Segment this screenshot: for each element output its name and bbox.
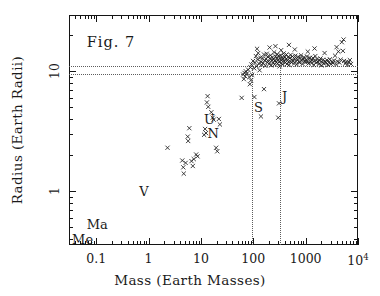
jupiter-label: J [282, 90, 287, 103]
x-tick [146, 15, 147, 19]
x-tick [269, 15, 270, 19]
x-tick [128, 241, 129, 245]
x-tick [350, 241, 351, 245]
x-tick [137, 15, 138, 19]
y-tick [351, 191, 358, 192]
x-tick [128, 15, 129, 19]
y-tick [354, 90, 358, 91]
x-tick [321, 241, 322, 245]
x-tick-label: 1000 [290, 253, 322, 266]
saturn-label: S [254, 101, 263, 114]
x-tick [91, 15, 92, 19]
y-tick [354, 77, 358, 78]
x-tick [121, 15, 122, 19]
guide-line-saturn-mass [252, 68, 253, 245]
x-tick [185, 15, 186, 19]
x-tick [285, 15, 286, 19]
y-tick [354, 210, 358, 211]
x-tick [331, 15, 332, 19]
x-tick [140, 241, 141, 245]
x-tick [88, 15, 89, 19]
x-tick [303, 241, 304, 245]
x-tick [278, 15, 279, 19]
x-tick [242, 241, 243, 245]
x-tick-label-mantissa: 10 [347, 253, 363, 268]
x-tick [356, 15, 357, 19]
x-tick [96, 15, 97, 22]
y-tick [354, 134, 358, 135]
y-tick [69, 191, 76, 192]
x-tick [189, 15, 190, 19]
x-tick [180, 241, 181, 245]
x-tick [164, 241, 165, 245]
x-tick [146, 241, 147, 245]
y-tick [69, 98, 73, 99]
x-tick [290, 241, 291, 245]
x-tick [248, 15, 249, 19]
figure-scatter-mass-radius: 0.11101001000104 110 MeMaVUNSJ Fig. 7 Ma… [0, 0, 380, 296]
x-tick [180, 15, 181, 19]
x-tick [201, 15, 202, 22]
x-tick [217, 15, 218, 19]
guide-line-jupiter-radius [69, 66, 358, 67]
x-tick [290, 15, 291, 19]
y-tick [69, 71, 76, 72]
uranus-label: U [204, 112, 215, 125]
y-tick [354, 203, 358, 204]
y-tick [354, 98, 358, 99]
y-tick [69, 218, 73, 219]
x-tick [185, 241, 186, 245]
x-tick [144, 15, 145, 19]
y-tick [69, 227, 73, 228]
y-tick-label: 10 [49, 63, 62, 79]
y-tick [354, 197, 358, 198]
x-tick [294, 241, 295, 245]
x-tick [149, 15, 150, 22]
x-tick [112, 241, 113, 245]
y-tick [69, 210, 73, 211]
x-tick [144, 241, 145, 245]
y-tick [354, 218, 358, 219]
y-tick [69, 134, 73, 135]
x-tick [96, 238, 97, 245]
neptune-label: N [208, 127, 219, 140]
y-tick [354, 227, 358, 228]
x-tick [238, 241, 239, 245]
y-tick [354, 35, 358, 36]
x-tick [321, 15, 322, 19]
x-tick [358, 15, 359, 22]
y-tick [354, 239, 358, 240]
x-tick [285, 241, 286, 245]
x-tick [356, 241, 357, 245]
x-tick [298, 241, 299, 245]
x-tick [137, 241, 138, 245]
y-tick [69, 155, 73, 156]
x-tick [350, 15, 351, 19]
y-tick [69, 203, 73, 204]
x-tick [353, 15, 354, 19]
y-tick [351, 71, 358, 72]
x-tick [306, 15, 307, 22]
x-tick [80, 15, 81, 19]
x-tick [121, 241, 122, 245]
y-tick [69, 35, 73, 36]
x-tick [248, 241, 249, 245]
x-tick [245, 15, 246, 19]
venus-label: V [139, 185, 148, 198]
x-tick [164, 15, 165, 19]
x-tick [199, 241, 200, 245]
x-tick [301, 241, 302, 245]
x-tick [196, 15, 197, 19]
figure-label: Fig. 7 [87, 35, 135, 50]
x-tick [174, 241, 175, 245]
x-tick [149, 238, 150, 245]
x-tick [353, 241, 354, 245]
x-tick [217, 241, 218, 245]
x-tick [226, 241, 227, 245]
x-tick [94, 15, 95, 19]
x-tick [133, 15, 134, 19]
x-tick [253, 238, 254, 245]
x-tick [75, 15, 76, 19]
x-tick [196, 241, 197, 245]
x-tick [294, 15, 295, 19]
